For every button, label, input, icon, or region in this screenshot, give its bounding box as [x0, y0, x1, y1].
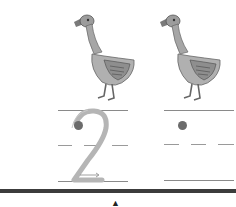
goose-icon [160, 15, 220, 100]
top-guide-line [164, 110, 234, 111]
bottom-guide-line [164, 180, 234, 181]
goose-icon [74, 15, 134, 100]
mid-dash [191, 144, 206, 145]
section-divider [0, 189, 236, 193]
mid-dash [164, 144, 179, 145]
start-dot [178, 121, 187, 130]
triangle-marker-icon: ▲ [111, 199, 120, 207]
mid-dash [218, 144, 234, 145]
start-dot [74, 121, 83, 130]
goose-image-2 [158, 12, 223, 102]
goose-image-1 [72, 12, 137, 102]
tracing-digit-two [66, 108, 116, 184]
